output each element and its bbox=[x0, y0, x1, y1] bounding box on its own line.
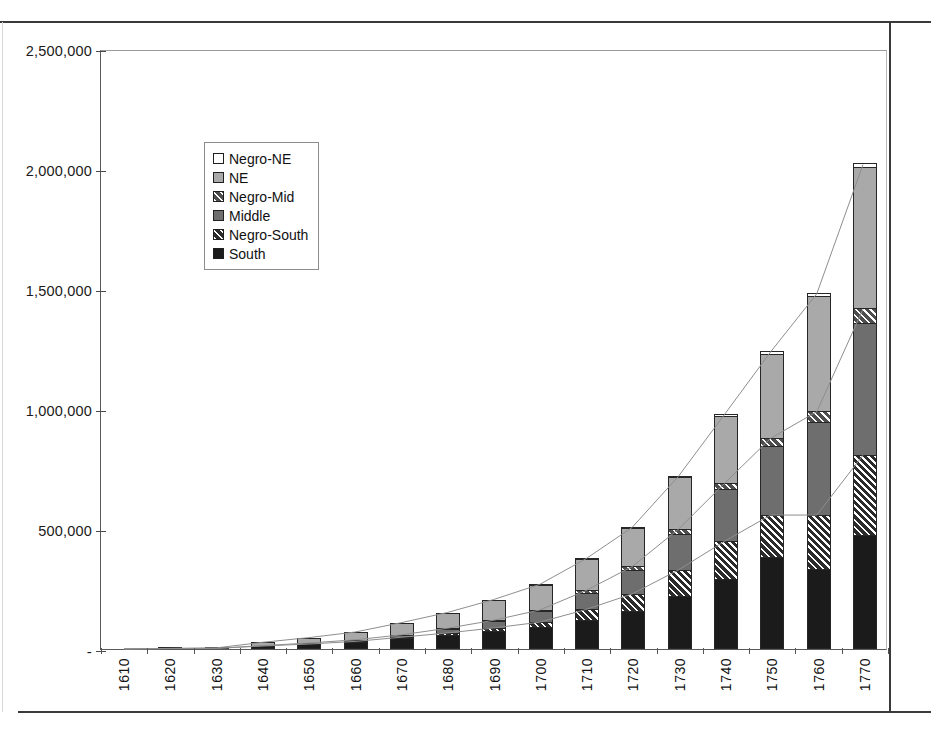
bar-segment-south[interactable] bbox=[575, 620, 599, 649]
bar-segment-middle[interactable] bbox=[760, 446, 784, 514]
bar-segment-middle[interactable] bbox=[297, 643, 321, 644]
bar-segment-middle[interactable] bbox=[853, 323, 877, 455]
bar-segment-negro-ne[interactable] bbox=[853, 163, 877, 167]
bar-segment-ne[interactable] bbox=[344, 632, 368, 640]
x-axis-tick-mark bbox=[286, 648, 287, 654]
bar-segment-south[interactable] bbox=[621, 611, 645, 649]
bar-segment-negro-south[interactable] bbox=[529, 622, 553, 627]
x-axis-tick-label: 1720 bbox=[625, 658, 641, 691]
legend-swatch-icon bbox=[213, 172, 224, 183]
bar-segment-south[interactable] bbox=[390, 638, 414, 649]
bar-segment-south[interactable] bbox=[251, 646, 275, 649]
bar-segment-negro-ne[interactable] bbox=[668, 476, 692, 477]
bar-segment-negro-ne[interactable] bbox=[575, 558, 599, 559]
legend-item[interactable]: NE bbox=[213, 168, 308, 187]
bar-segment-ne[interactable] bbox=[668, 477, 692, 529]
bar-slot bbox=[286, 51, 332, 649]
bar-segment-ne[interactable] bbox=[297, 638, 321, 643]
bar-segment-negro-mid[interactable] bbox=[529, 610, 553, 611]
bar-segment-middle[interactable] bbox=[344, 640, 368, 641]
legend-item[interactable]: Negro-NE bbox=[213, 149, 308, 168]
bar-segment-negro-south[interactable] bbox=[575, 609, 599, 620]
bar-segment-middle[interactable] bbox=[621, 570, 645, 594]
legend-label: Middle bbox=[229, 208, 270, 224]
legend-label: South bbox=[229, 246, 266, 262]
bar-segment-negro-south[interactable] bbox=[714, 541, 738, 579]
bar-segment-middle[interactable] bbox=[482, 621, 506, 628]
bar-segment-south[interactable] bbox=[344, 642, 368, 649]
x-axis-tick-mark bbox=[194, 648, 195, 654]
x-axis-tick-mark bbox=[564, 648, 565, 654]
legend-label: Negro-Mid bbox=[229, 189, 294, 205]
bar-segment-negro-mid[interactable] bbox=[668, 529, 692, 534]
bar-segment-negro-mid[interactable] bbox=[714, 483, 738, 489]
bar-segment-middle[interactable] bbox=[807, 422, 831, 514]
legend-item[interactable]: Middle bbox=[213, 206, 308, 225]
bar-slot bbox=[194, 51, 240, 649]
bar-segment-south[interactable] bbox=[297, 644, 321, 649]
legend-label: Negro-NE bbox=[229, 151, 291, 167]
bar-segment-negro-mid[interactable] bbox=[853, 308, 877, 322]
bar-segment-middle[interactable] bbox=[529, 611, 553, 622]
bar-segment-ne[interactable] bbox=[714, 416, 738, 483]
bar-segment-negro-mid[interactable] bbox=[807, 411, 831, 422]
bar-segment-south[interactable] bbox=[668, 596, 692, 649]
bar-segment-ne[interactable] bbox=[807, 296, 831, 411]
x-axis-tick-mark bbox=[610, 648, 611, 654]
bar-segment-middle[interactable] bbox=[390, 635, 414, 637]
bar-segment-south[interactable] bbox=[529, 627, 553, 649]
bar-segment-middle[interactable] bbox=[436, 629, 460, 633]
bar-segment-negro-south[interactable] bbox=[760, 515, 784, 557]
bar-segment-ne[interactable] bbox=[621, 528, 645, 566]
bar-segment-ne[interactable] bbox=[529, 585, 553, 610]
legend-item[interactable]: South bbox=[213, 244, 308, 263]
bar-segment-negro-ne[interactable] bbox=[529, 584, 553, 585]
bar-segment-ne[interactable] bbox=[390, 623, 414, 635]
bar-segment-south[interactable] bbox=[436, 635, 460, 649]
bar-slot bbox=[749, 51, 795, 649]
bar-segment-negro-south[interactable] bbox=[436, 633, 460, 635]
bars-layer bbox=[101, 51, 886, 649]
bar-segment-south[interactable] bbox=[853, 535, 877, 649]
x-axis-tick-label: 1640 bbox=[255, 658, 271, 691]
bar-segment-south[interactable] bbox=[807, 569, 831, 649]
bar-segment-negro-south[interactable] bbox=[807, 515, 831, 569]
bar-slot bbox=[101, 51, 147, 649]
bar-segment-south[interactable] bbox=[205, 647, 229, 649]
bar-segment-negro-mid[interactable] bbox=[621, 566, 645, 569]
bar-segment-negro-south[interactable] bbox=[668, 570, 692, 596]
bar-segment-south[interactable] bbox=[760, 557, 784, 649]
x-axis-tick-mark bbox=[703, 648, 704, 654]
legend-swatch-icon bbox=[213, 210, 224, 221]
bar-segment-negro-ne[interactable] bbox=[760, 351, 784, 354]
bar-segment-negro-south[interactable] bbox=[482, 628, 506, 631]
bar-segment-south[interactable] bbox=[482, 631, 506, 649]
bar-segment-middle[interactable] bbox=[575, 593, 599, 610]
bar-segment-negro-ne[interactable] bbox=[807, 293, 831, 296]
bar-segment-ne[interactable] bbox=[436, 613, 460, 629]
bar-slot bbox=[147, 51, 193, 649]
x-axis-tick-mark bbox=[425, 648, 426, 654]
bar-segment-ne[interactable] bbox=[760, 354, 784, 438]
bar-segment-ne[interactable] bbox=[575, 559, 599, 590]
y-axis-tick-label: - bbox=[87, 643, 92, 660]
bar-segment-middle[interactable] bbox=[714, 489, 738, 541]
bar-slot bbox=[564, 51, 610, 649]
legend-item[interactable]: Negro-South bbox=[213, 225, 308, 244]
bar-segment-negro-south[interactable] bbox=[621, 594, 645, 611]
legend-item[interactable]: Negro-Mid bbox=[213, 187, 308, 206]
bar-segment-ne[interactable] bbox=[853, 167, 877, 309]
bar-segment-negro-ne[interactable] bbox=[714, 414, 738, 416]
bar-segment-middle[interactable] bbox=[668, 534, 692, 570]
x-axis-tick-mark bbox=[240, 648, 241, 654]
bar-segment-negro-south[interactable] bbox=[853, 455, 877, 535]
bar-segment-ne[interactable] bbox=[482, 600, 506, 620]
bar-slot bbox=[379, 51, 425, 649]
bar-segment-south[interactable] bbox=[158, 647, 182, 649]
bar-segment-ne[interactable] bbox=[251, 642, 275, 645]
bar-segment-negro-mid[interactable] bbox=[575, 590, 599, 592]
x-axis-tick-mark bbox=[842, 648, 843, 654]
bar-segment-negro-mid[interactable] bbox=[760, 438, 784, 447]
bar-segment-negro-ne[interactable] bbox=[621, 527, 645, 528]
bar-segment-south[interactable] bbox=[714, 579, 738, 649]
